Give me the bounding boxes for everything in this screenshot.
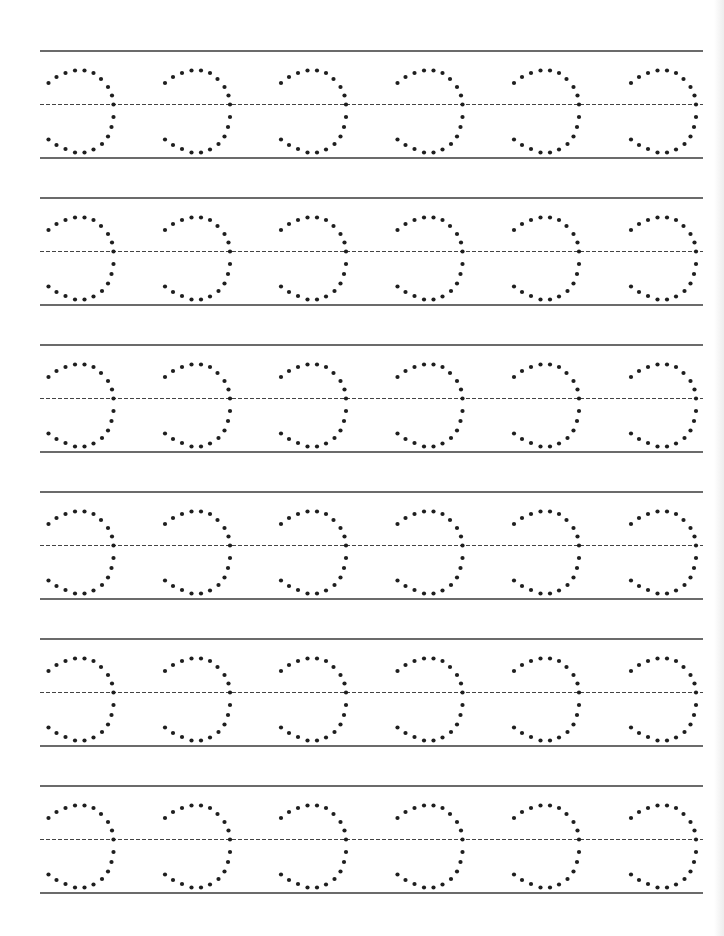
trace-dot: [520, 369, 524, 373]
trace-dot: [629, 578, 633, 582]
trace-dot: [529, 294, 533, 298]
trace-dot: [110, 93, 114, 97]
trace-dot: [228, 249, 232, 253]
dotted-letter-c: [279, 68, 348, 154]
trace-dot: [228, 262, 232, 266]
trace-dot: [342, 125, 346, 129]
trace-dot: [577, 690, 581, 694]
trace-dot: [46, 81, 50, 85]
trace-dot: [46, 669, 50, 673]
trace-dot: [279, 872, 283, 876]
trace-dot: [440, 71, 444, 75]
dotted-letter-c: [163, 803, 232, 889]
trace-dot: [279, 669, 283, 673]
trace-dot: [111, 409, 115, 413]
dotted-letter-c: [46, 656, 115, 742]
trace-dot: [455, 526, 459, 530]
trace-dot: [279, 375, 283, 379]
trace-dot: [228, 690, 232, 694]
trace-dot: [189, 591, 193, 595]
trace-dot: [422, 215, 426, 219]
trace-dot: [324, 441, 328, 445]
trace-dot: [338, 820, 342, 824]
trace-dot: [403, 75, 407, 79]
dotted-letter-c: [46, 509, 115, 595]
trace-dot: [575, 240, 579, 244]
dotted-letter-c: [279, 656, 348, 742]
trace-dot: [412, 882, 416, 886]
trace-dot: [100, 436, 104, 440]
trace-dot: [629, 725, 633, 729]
trace-dot: [674, 71, 678, 75]
trace-dot: [46, 228, 50, 232]
trace-dot: [199, 509, 203, 513]
trace-dot: [338, 232, 342, 236]
trace-dot: [412, 588, 416, 592]
trace-dot: [403, 143, 407, 147]
trace-dot: [674, 218, 678, 222]
trace-dot: [674, 735, 678, 739]
trace-dot: [564, 812, 568, 816]
trace-dot: [548, 362, 552, 366]
trace-dot: [646, 218, 650, 222]
trace-dot: [665, 885, 669, 889]
trace-dot: [111, 249, 115, 253]
trace-dot: [577, 409, 581, 413]
trace-dot: [629, 375, 633, 379]
trace-dot: [287, 437, 291, 441]
trace-dot: [692, 240, 696, 244]
trace-dot: [91, 147, 95, 151]
trace-dot: [520, 810, 524, 814]
trace-dot: [694, 102, 698, 106]
trace-dot: [455, 575, 459, 579]
trace-dot: [665, 738, 669, 742]
dotted-letter-c: [395, 509, 464, 595]
trace-dot: [655, 738, 659, 742]
trace-dot: [180, 735, 184, 739]
trace-dot: [73, 656, 77, 660]
trace-dot: [694, 690, 698, 694]
trace-dot: [106, 673, 110, 677]
trace-dot: [215, 518, 219, 522]
trace-dot: [694, 249, 698, 253]
trace-dot: [315, 362, 319, 366]
trace-dot: [440, 735, 444, 739]
trace-dot: [431, 591, 435, 595]
trace-dot: [458, 125, 462, 129]
trace-dot: [637, 75, 641, 79]
trace-dot: [692, 387, 696, 391]
trace-dot: [674, 365, 678, 369]
trace-dot: [688, 134, 692, 138]
trace-dot: [106, 428, 110, 432]
trace-dot: [564, 224, 568, 228]
trace-dot: [109, 713, 113, 717]
trace-dot: [629, 522, 633, 526]
trace-dot: [46, 725, 50, 729]
trace-dot: [91, 294, 95, 298]
trace-dot: [694, 396, 698, 400]
trace-dot: [171, 584, 175, 588]
trace-dot: [338, 722, 342, 726]
trace-dot: [199, 656, 203, 660]
trace-dot: [431, 68, 435, 72]
dotted-letter-c: [46, 362, 115, 448]
trace-dot: [189, 150, 193, 154]
trace-dot: [449, 877, 453, 881]
trace-dot: [73, 885, 77, 889]
trace-dot: [448, 77, 452, 81]
trace-dot: [216, 436, 220, 440]
trace-dot: [548, 444, 552, 448]
trace-dot: [305, 656, 309, 660]
trace-dot: [296, 218, 300, 222]
trace-dot: [431, 362, 435, 366]
trace-dot: [208, 588, 212, 592]
trace-dot: [692, 272, 696, 276]
trace-dot: [100, 289, 104, 293]
trace-dot: [344, 850, 348, 854]
trace-dot: [342, 240, 346, 244]
trace-dot: [226, 272, 230, 276]
trace-dot: [575, 419, 579, 423]
trace-dot: [681, 77, 685, 81]
trace-dot: [637, 878, 641, 882]
trace-dot: [63, 659, 67, 663]
